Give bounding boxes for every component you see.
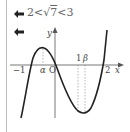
y-axis-label: y (46, 28, 52, 38)
x-axis-label: x (115, 65, 120, 75)
tick-two: 2 (105, 65, 110, 75)
cubic-graph: y x O −1 α 1 β 2 (0, 0, 130, 132)
cubic-curve (21, 30, 107, 118)
tick-one: 1 (76, 53, 81, 63)
tick-beta: β (82, 53, 88, 63)
tick-alpha: α (40, 65, 46, 75)
y-axis-arrow-icon (53, 27, 58, 33)
origin-label: O (49, 65, 56, 75)
tick-minus-one: −1 (13, 65, 26, 75)
